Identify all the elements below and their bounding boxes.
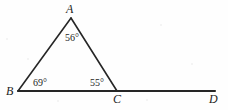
vertex-label-C: C xyxy=(113,93,121,105)
vertex-label-B: B xyxy=(6,85,13,97)
angle-label-B: 69° xyxy=(33,78,47,88)
angle-label-A: 56° xyxy=(65,33,79,43)
vertex-label-D: D xyxy=(209,93,218,105)
angle-label-C: 55° xyxy=(90,78,104,88)
vertex-label-A: A xyxy=(66,3,73,15)
geometry-figure: A B C D 56° 69° 55° xyxy=(0,0,228,110)
